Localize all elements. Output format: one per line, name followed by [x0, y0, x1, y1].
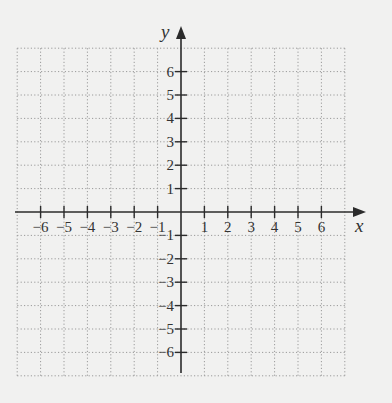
y-tick-label: 1: [167, 181, 175, 197]
y-tick-label: −2: [158, 251, 174, 267]
x-tick-label: −6: [33, 219, 49, 235]
y-tick-label: 2: [167, 157, 175, 173]
y-tick-label: 5: [167, 87, 175, 103]
y-tick-label: −1: [158, 227, 174, 243]
y-tick-label: 3: [167, 134, 175, 150]
coordinate-plane: −6−5−4−3−2−1123456−6−5−4−3−2−1123456 x y: [0, 0, 392, 403]
x-tick-label: 6: [318, 219, 326, 235]
y-tick-label: 4: [167, 110, 175, 126]
x-tick-label: −3: [103, 219, 119, 235]
axes: [15, 26, 366, 373]
x-tick-label: 2: [224, 219, 232, 235]
x-tick-label: 4: [271, 219, 279, 235]
x-tick-label: −4: [79, 219, 95, 235]
coordinate-grid-svg: −6−5−4−3−2−1123456−6−5−4−3−2−1123456 x y: [0, 0, 392, 403]
x-tick-label: 1: [201, 219, 209, 235]
x-tick-label: −2: [126, 219, 142, 235]
y-axis-arrow-icon: [176, 26, 186, 39]
x-tick-label: 5: [294, 219, 302, 235]
y-tick-label: −4: [158, 298, 174, 314]
x-axis-label: x: [354, 215, 364, 236]
y-tick-label: −5: [158, 321, 174, 337]
y-tick-label: −3: [158, 274, 174, 290]
y-tick-label: 6: [167, 64, 175, 80]
y-axis-label: y: [159, 21, 170, 42]
x-tick-label: −5: [56, 219, 72, 235]
y-tick-label: −6: [158, 344, 174, 360]
x-tick-label: 3: [247, 219, 255, 235]
